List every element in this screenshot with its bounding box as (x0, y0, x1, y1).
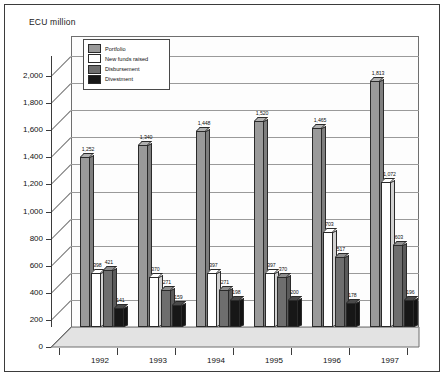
bar-value-label: 141 (116, 297, 124, 303)
bar-value-label: 397 (209, 262, 217, 268)
y-axis-tick-label: 600 (5, 261, 43, 270)
bar-front-face (381, 182, 391, 327)
bar (114, 308, 124, 327)
legend-swatch (88, 54, 101, 63)
bar-front-face (230, 300, 240, 327)
bar (381, 182, 391, 327)
bar (335, 257, 345, 327)
bar (254, 121, 264, 327)
gridline (71, 110, 419, 111)
legend-item: Portfolio (88, 44, 165, 53)
gridline (71, 273, 419, 274)
x-axis-tick-label: 1995 (248, 356, 300, 365)
y-axis-tick-label: 1,000 (5, 207, 43, 216)
bar-front-face (138, 145, 148, 327)
bar-front-face (265, 273, 275, 327)
y-axis-tick-label: 2,000 (5, 71, 43, 80)
bar (149, 277, 159, 327)
legend-label: Portfolio (105, 46, 126, 52)
y-tick-connector (51, 219, 72, 240)
bar (161, 290, 171, 327)
bar-front-face (254, 121, 264, 327)
bar-value-label: 1,520 (256, 110, 268, 116)
x-axis-tick-label: 1992 (74, 356, 126, 365)
y-axis-tick-label: 1,800 (5, 98, 43, 107)
bar-side-face (356, 301, 360, 327)
legend-item: Divestment (88, 75, 165, 84)
bar-side-face (124, 306, 128, 327)
x-axis-tick-label: 1993 (132, 356, 184, 365)
bar-value-label: 271 (163, 279, 171, 285)
bar-value-label: 1,813 (372, 70, 384, 76)
bar (80, 157, 90, 327)
y-axis-tick (46, 103, 51, 104)
y-tick-connector (51, 56, 72, 77)
y-tick-connector (51, 83, 72, 104)
y-axis-line (51, 56, 52, 327)
legend-label: Divestment (105, 76, 133, 82)
y-axis-tick-label: 0 (5, 342, 43, 351)
bar-value-label: 1,072 (383, 171, 395, 177)
gridline (71, 164, 419, 165)
bar-front-face (404, 300, 414, 327)
y-axis-tick-label: 1,200 (5, 179, 43, 188)
bar-front-face (346, 303, 356, 327)
y-axis-tick (46, 157, 51, 158)
bar-value-label: 421 (105, 259, 113, 265)
y-axis-tick (46, 239, 51, 240)
bar-value-label: 1,252 (82, 146, 94, 152)
gridline (71, 219, 419, 220)
x-axis-tick-label: 1997 (364, 356, 416, 365)
bar (196, 131, 206, 327)
bar (91, 273, 101, 327)
y-axis-tick (46, 76, 51, 77)
gridline (71, 137, 419, 138)
gridline (71, 246, 419, 247)
bar-value-label: 370 (151, 266, 159, 272)
bar (346, 303, 356, 327)
bar-front-face (393, 245, 403, 327)
bar (138, 145, 148, 327)
bar-side-face (414, 298, 418, 326)
bar-front-face (91, 273, 101, 327)
bar-value-label: 517 (337, 246, 345, 252)
x-axis-tick (117, 348, 118, 355)
bar (172, 305, 182, 327)
bar-value-label: 398 (93, 262, 101, 268)
bar-value-label: 370 (279, 266, 287, 272)
bar-front-face (172, 305, 182, 327)
bar (393, 245, 403, 327)
bar-front-face (161, 290, 171, 327)
bar-side-face (240, 298, 244, 327)
bar-value-label: 159 (174, 294, 182, 300)
y-axis-tick (46, 293, 51, 294)
y-axis-tick (46, 320, 51, 321)
bar-value-label: 1,340 (140, 134, 152, 140)
x-axis-tick (59, 348, 60, 355)
y-axis-tick-label: 1,600 (5, 125, 43, 134)
bar (288, 300, 298, 327)
chart-frame: ECU million 1,2523984211411,340370271159… (4, 4, 440, 372)
bar (207, 273, 217, 327)
bar-front-face (114, 308, 124, 327)
bar-side-face (298, 298, 302, 327)
bar-front-face (277, 277, 287, 327)
bar-value-label: 198 (232, 289, 240, 295)
bar-value-label: 271 (221, 279, 229, 285)
y-axis-tick-label: 400 (5, 288, 43, 297)
y-axis-tick-label: 200 (5, 315, 43, 324)
y-axis-tick (46, 266, 51, 267)
legend-swatch (88, 65, 101, 74)
bar-value-label: 178 (348, 292, 356, 298)
bar-value-label: 703 (325, 221, 333, 227)
x-axis-line (51, 347, 419, 348)
legend-swatch (88, 44, 101, 53)
x-axis-tick (349, 348, 350, 355)
bar-front-face (207, 273, 217, 327)
bar-value-label: 1,465 (314, 117, 326, 123)
bar-front-face (219, 290, 229, 327)
x-axis-tick-label: 1996 (306, 356, 358, 365)
chart-legend: PortfolioNew funds raisedDisbursementDiv… (83, 39, 170, 90)
y-tick-connector (51, 110, 72, 131)
bar (277, 277, 287, 327)
